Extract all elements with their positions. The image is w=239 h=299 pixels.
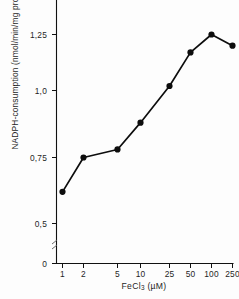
x-tick-label: 50 xyxy=(186,269,196,279)
data-series-line xyxy=(63,35,233,192)
chart-figure: NADPH-consumption (nmol/min/mg protein) … xyxy=(0,0,239,299)
x-tick-label: 25 xyxy=(165,269,175,279)
x-tick-marks xyxy=(63,264,233,269)
x-tick-labels: 1 2 5 10 25 50 100 250 xyxy=(60,269,239,279)
x-axis-title-base: FeCl xyxy=(122,281,141,291)
y-tick-marks xyxy=(52,35,57,264)
y-tick-label: 1,25 xyxy=(30,30,47,40)
x-tick-label: 1 xyxy=(60,269,65,279)
data-point xyxy=(59,189,65,195)
y-tick-label: 0,5 xyxy=(35,219,47,229)
data-point xyxy=(187,49,193,55)
data-point xyxy=(114,146,120,152)
x-axis-title-subscript: 3 xyxy=(141,284,145,291)
x-axis-title-unit: (µM) xyxy=(147,281,166,291)
x-tick-label: 100 xyxy=(204,269,219,279)
x-tick-label: 250 xyxy=(225,269,239,279)
y-tick-labels: 1,25 1,0 0,75 0,5 0 xyxy=(30,30,47,269)
y-tick-label: 0,75 xyxy=(30,153,47,163)
data-point xyxy=(80,154,86,160)
x-tick-label: 2 xyxy=(81,269,86,279)
y-tick-label: 0 xyxy=(42,259,47,269)
x-tick-label: 5 xyxy=(115,269,120,279)
data-point xyxy=(208,31,214,37)
y-tick-label: 1,0 xyxy=(35,86,47,96)
data-point xyxy=(166,83,172,89)
data-point xyxy=(137,120,143,126)
data-point xyxy=(229,43,235,49)
x-tick-label: 10 xyxy=(136,269,146,279)
x-axis-title: FeCl3 (µM) xyxy=(56,281,232,291)
plot-area: 1,25 1,0 0,75 0,5 0 1 2 5 10 25 50 100 2… xyxy=(0,0,239,299)
